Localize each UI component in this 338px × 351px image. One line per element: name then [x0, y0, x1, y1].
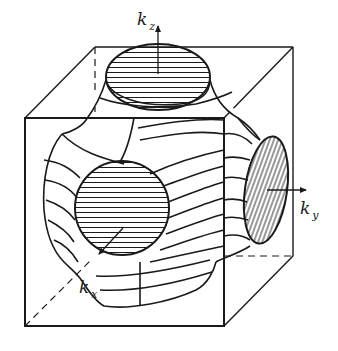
ky-label: ky: [300, 200, 319, 217]
ky-symbol: k: [300, 198, 310, 218]
ky-subscript: y: [312, 209, 318, 222]
kz-label: kz: [137, 11, 155, 28]
fermi-surface-diagram: [0, 0, 338, 351]
front-neck-circle: [75, 161, 169, 255]
kz-symbol: k: [137, 9, 147, 29]
kz-subscript: z: [149, 20, 155, 33]
kx-subscript: x: [91, 288, 97, 301]
kx-symbol: k: [79, 277, 89, 297]
kx-label: kx: [79, 279, 98, 296]
